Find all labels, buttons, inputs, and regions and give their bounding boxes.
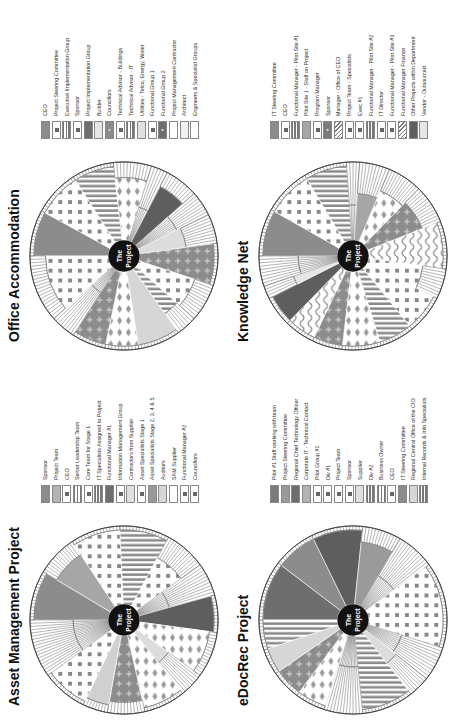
- legend-item: Corporate IT - Technical Contact: [301, 364, 312, 503]
- legend-item: Technical Advisor - IT: [126, 0, 137, 139]
- legend-label: Auditors: [160, 460, 166, 480]
- legend-swatch: [345, 121, 354, 139]
- legend-swatch: [94, 485, 103, 503]
- legend-item: IT Steering Committee: [397, 364, 408, 503]
- legend-item: Project Team: [333, 364, 344, 503]
- legend-item: CEO: [40, 0, 51, 139]
- legend-swatch: [366, 485, 375, 503]
- legend-label: Project Team: [53, 449, 59, 480]
- legend: CEOProject Steering CommitteeExecutive I…: [40, 0, 200, 139]
- legend-item: Sponsor: [72, 0, 83, 139]
- legend-label: Sponsor: [346, 460, 352, 480]
- legend-label: Functional Manager - Pilot Site #3: [389, 35, 395, 116]
- legend-item: Executive Implementation Group: [61, 0, 72, 139]
- legend-item: Contractors from Supplier: [126, 364, 137, 503]
- legend-item: Sponsor: [40, 364, 51, 503]
- legend-item: CEO: [387, 364, 398, 503]
- legend-label: Div #1: [325, 465, 331, 480]
- legend-swatch: [158, 121, 167, 139]
- legend-label: Technical Advisor - Buildings: [117, 48, 123, 116]
- legend-swatch: [334, 121, 343, 139]
- legend-swatch: [84, 121, 93, 139]
- legend-item: Div #1: [322, 364, 333, 503]
- legend-item: Functional Manager Finance: [397, 0, 408, 139]
- legend-label: Contractors from Supplier: [128, 419, 134, 480]
- legend-item: Exec #1: [355, 0, 366, 139]
- legend-item: Sponsor: [344, 364, 355, 503]
- legend-swatch: [334, 485, 343, 503]
- legend-swatch: [73, 485, 82, 503]
- legend-label: Pilot #1 Staff working with team: [271, 405, 277, 480]
- legend-swatch: [419, 485, 428, 503]
- legend-swatch: [158, 485, 167, 503]
- legend-item: Auditors: [158, 364, 169, 503]
- legend-label: IT Specialists Assigned to Project: [96, 400, 102, 480]
- legend-item: CEO: [61, 364, 72, 503]
- legend-label: CEO: [64, 468, 70, 480]
- legend-swatch: [94, 121, 103, 139]
- legend-swatch: [270, 121, 279, 139]
- legend-swatch: [148, 121, 157, 139]
- legend-swatch: [41, 485, 50, 503]
- legend-label: Business Owner: [378, 441, 384, 480]
- legend-label: Asset Specialists Stage 1: [139, 419, 145, 480]
- legend-label: Project Team: [335, 449, 341, 480]
- center-label: Project: [125, 244, 133, 268]
- legend-item: Functional Manager #1: [104, 364, 115, 503]
- legend-swatch: [105, 485, 114, 503]
- legend-label: Exec #1: [357, 97, 363, 116]
- rotated-page: Asset Management Project TheProject Spon…: [0, 0, 457, 728]
- legend-swatch: [148, 485, 157, 503]
- legend-item: Project Implementation Group: [83, 0, 94, 139]
- legend-item: Pilot #1 Staff working with team: [269, 364, 280, 503]
- legend-swatch: [398, 485, 407, 503]
- legend-swatch: [281, 121, 290, 139]
- legend-label: Builder: [96, 99, 102, 116]
- legend-item: Technical Advisor - Buildings: [115, 0, 126, 139]
- legend-label: Asset Specialists Stage 2, 3, 4 & 5: [149, 398, 155, 480]
- legend-swatch: [409, 485, 418, 503]
- legend-item: Functional Manager - Pilot Site #2: [365, 0, 376, 139]
- legend-label: Engineers & Specialist Groups: [192, 43, 198, 116]
- legend-item: Councillors: [104, 0, 115, 139]
- legend-swatch: [180, 485, 189, 503]
- legend-item: Functional Manager - Pilot Site #3: [387, 0, 398, 139]
- legend-item: IT Director: [376, 0, 387, 139]
- legend-swatch: [323, 485, 332, 503]
- legend-item: Information Management Group: [115, 364, 126, 503]
- legend-label: Sponsor: [74, 96, 80, 116]
- legend-label: Functional Manager - Pilot Site #2: [368, 35, 374, 116]
- legend-label: Functional Manager Finance: [400, 48, 406, 116]
- panel-title: Knowledge Net: [235, 241, 251, 342]
- legend-item: Supplier: [355, 364, 366, 503]
- legend-label: Technical Advisor - IT: [128, 65, 134, 116]
- legend-item: CEO: [280, 0, 291, 139]
- legend-swatch: [366, 121, 375, 139]
- legend-swatch: [355, 485, 364, 503]
- panel-asset-management: Asset Management Project TheProject Spon…: [0, 364, 228, 728]
- legend-item: Vendor - Outsourced: [419, 0, 430, 139]
- legend-label: Executive Implementation Group: [64, 38, 70, 116]
- legend-label: Sponsor: [325, 96, 331, 116]
- legend-swatch: [355, 121, 364, 139]
- legend-swatch: [323, 121, 332, 139]
- legend-label: Functional Group 1: [149, 70, 155, 116]
- legend-item: Functional Manager #2: [179, 364, 190, 503]
- legend-label: Information Management Group: [117, 404, 123, 480]
- legend-swatch: [41, 121, 50, 139]
- legend-label: Pilot Group #1: [314, 446, 320, 480]
- legend-item: Engineers & Specialist Groups: [190, 0, 201, 139]
- legend-item: SAM Supplier: [168, 364, 179, 503]
- center-label: The: [345, 614, 352, 626]
- legend: IT Steering CommitteeCEOFunctional Manag…: [269, 0, 429, 139]
- legend-item: Business Owner: [376, 364, 387, 503]
- legend-swatch: [137, 121, 146, 139]
- panel-title: eDocRec Project: [235, 595, 251, 706]
- legend-label: Corporate IT - Technical Contact: [303, 403, 309, 480]
- legend-swatch: [84, 485, 93, 503]
- legend-swatch: [387, 121, 396, 139]
- legend-swatch: [116, 485, 125, 503]
- legend-label: Program Manager: [314, 73, 320, 116]
- legend-item: Pilot Group #1: [312, 364, 323, 503]
- legend-label: Regional Central Office of the CIO: [410, 398, 416, 480]
